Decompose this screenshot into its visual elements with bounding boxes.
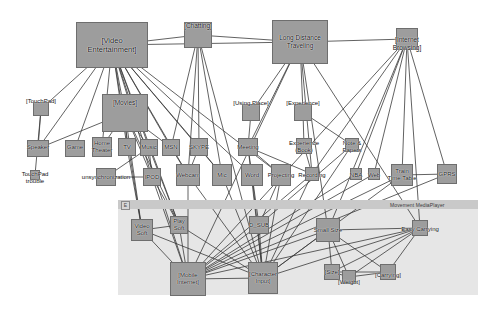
node-d_sub[interactable]: [249, 216, 269, 234]
node-speaker[interactable]: [27, 140, 49, 157]
node-size[interactable]: [324, 264, 340, 280]
node-easy_carrying[interactable]: [412, 220, 428, 236]
node-touchpad_trouble[interactable]: [30, 170, 40, 180]
node-meeting[interactable]: [238, 138, 258, 156]
media-player-panel-title: Movement MediaPlayer: [390, 202, 445, 208]
node-gprs[interactable]: [437, 164, 457, 184]
node-recording[interactable]: [305, 167, 319, 181]
node-video_soft[interactable]: [131, 219, 153, 241]
node-weight[interactable]: [342, 270, 356, 284]
node-home_theater[interactable]: [92, 137, 112, 157]
node-internet_browsing[interactable]: [396, 28, 418, 50]
node-mobile_internet[interactable]: [170, 262, 206, 296]
node-movies[interactable]: [102, 94, 148, 132]
node-tv[interactable]: [118, 138, 136, 156]
node-ipod[interactable]: [143, 168, 161, 186]
edge: [328, 228, 420, 230]
node-play_soft[interactable]: [170, 216, 188, 234]
edge: [198, 35, 263, 278]
node-experience[interactable]: [294, 104, 312, 121]
edge: [407, 39, 447, 174]
edge: [188, 174, 374, 279]
edge: [198, 35, 199, 147]
node-video_entertainment[interactable]: [76, 22, 148, 68]
edge: [356, 39, 407, 174]
edge: [188, 42, 300, 279]
node-note_papers[interactable]: [345, 138, 359, 152]
node-unsynchronization[interactable]: [96, 168, 116, 186]
edge: [127, 147, 142, 230]
node-web[interactable]: [368, 168, 380, 180]
node-character_input[interactable]: [248, 262, 278, 294]
node-skype[interactable]: [190, 138, 208, 156]
node-touchpad[interactable]: [33, 102, 49, 116]
node-train_time_table[interactable]: [391, 164, 413, 186]
node-word[interactable]: [241, 164, 263, 186]
expand-icon[interactable]: E: [121, 201, 130, 210]
node-small_size[interactable]: [316, 218, 340, 242]
edge: [149, 148, 179, 226]
node-mic[interactable]: [212, 164, 232, 186]
node-msn[interactable]: [162, 139, 180, 156]
node-webcam[interactable]: [176, 164, 200, 186]
node-experience_book[interactable]: [296, 138, 312, 154]
node-chatting[interactable]: [184, 22, 212, 48]
node-long_distance_traveling[interactable]: [272, 20, 328, 64]
node-projecting[interactable]: [271, 164, 291, 186]
edge: [402, 39, 407, 175]
node-nba[interactable]: [350, 168, 362, 180]
diagram-canvas: E Movement MediaPlayer [Video Entertainm…: [0, 0, 478, 315]
node-game[interactable]: [65, 140, 85, 157]
node-carrying[interactable]: [380, 264, 396, 280]
node-music[interactable]: [140, 139, 158, 156]
node-using_place[interactable]: [242, 104, 260, 121]
edge: [188, 175, 402, 279]
edge: [332, 228, 420, 272]
